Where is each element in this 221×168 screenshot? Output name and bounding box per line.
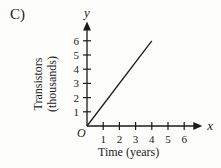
y-tick-label: 6 [74, 35, 80, 47]
origin-label: O [77, 126, 86, 140]
x-tick-label: 2 [117, 133, 123, 145]
x-tick-label: 6 [181, 133, 187, 145]
x-tick-label: 1 [100, 133, 106, 145]
y-tick-label: 5 [74, 49, 80, 61]
y-tick-label: 3 [74, 77, 80, 89]
x-axis-variable: x [206, 118, 213, 133]
line-chart: xyO123456123456 [0, 0, 221, 168]
x-tick-label: 5 [165, 133, 171, 145]
y-axis-arrow-icon [83, 21, 91, 30]
y-tick-label: 1 [74, 106, 80, 118]
x-tick-label: 4 [149, 133, 155, 145]
y-axis-variable: y [82, 5, 90, 20]
x-tick-label: 3 [133, 133, 139, 145]
x-axis-arrow-icon [193, 122, 202, 130]
y-tick-label: 2 [74, 92, 80, 104]
y-tick-label: 4 [74, 63, 80, 75]
data-line [87, 41, 152, 126]
